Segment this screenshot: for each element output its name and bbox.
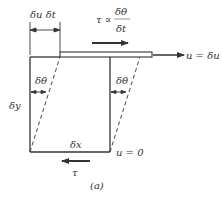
shear-relation-numerator: δθ	[115, 6, 127, 17]
deformed-element	[30, 57, 140, 152]
top-velocity-label: u = δu	[186, 50, 220, 61]
displacement-dimension	[30, 22, 60, 55]
right-angle-arrows	[111, 91, 126, 94]
left-angle-label: δθ	[35, 75, 47, 86]
displacement-label: δu δt	[30, 9, 57, 20]
shear-relation-lhs: τ ∝	[96, 14, 111, 25]
fluid-shear-diagram: δu δt τ ∝ δθ δt u = δu δθ δθ δy δx u = 0…	[0, 0, 222, 198]
bottom-velocity-label: u = 0	[116, 147, 144, 158]
left-angle-arrows	[31, 91, 46, 94]
figure-caption: (a)	[90, 180, 104, 191]
moving-plate	[60, 52, 152, 57]
deformed-right-edge	[110, 57, 140, 152]
deformed-left-edge	[30, 57, 60, 152]
width-label: δx	[70, 139, 82, 150]
fluid-element	[30, 57, 110, 152]
shear-relation-denominator: δt	[116, 23, 127, 34]
height-label: δy	[9, 100, 21, 111]
bottom-stress-label: τ	[72, 167, 78, 178]
right-angle-label: δθ	[116, 75, 128, 86]
